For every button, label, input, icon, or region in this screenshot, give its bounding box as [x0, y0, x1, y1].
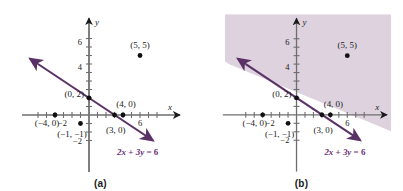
point-label-4-0-a: (4, 0): [116, 99, 136, 109]
point-0-2-b: [294, 96, 299, 101]
x-tick-label-neg2-b: −2: [266, 118, 275, 128]
graph-b: x y −2 6 −2 4 6 (0, 2) (3, 0) (4, 0) (5,…: [201, 0, 402, 175]
point-label-3-0-b: (3, 0): [313, 125, 332, 135]
point-neg4-0-b: [260, 112, 265, 117]
point-label-neg1-neg1-b: (−1, −1): [265, 129, 294, 139]
point-label-0-2-a: (0, 2): [65, 89, 85, 99]
x-tick-label-6-b: 6: [345, 118, 349, 128]
panel-caption-b: (b): [201, 178, 402, 189]
panel-a: x y −2 6 −2 4 6 (0, 2) (3, 0) (4, 0) (5,…: [0, 0, 201, 191]
point-label-neg4-0-a: (−4, 0): [35, 118, 60, 128]
panel-caption-a: (a): [0, 178, 201, 189]
point-3-0-b: [320, 112, 325, 117]
equation-label-a: 2x + 3y = 6: [116, 147, 159, 157]
point-label-3-0-a: (3, 0): [106, 125, 126, 135]
x-tick-label-neg2-a: −2: [58, 118, 67, 128]
x-axis-label-b: x: [374, 102, 379, 112]
y-axis-label-a: y: [94, 17, 99, 27]
point-label-5-5-a: (5, 5): [130, 40, 150, 50]
x-axis-label-a: x: [167, 102, 172, 112]
point-4-0-b: [328, 112, 333, 117]
line-arrow-left-a: [30, 59, 38, 64]
point-neg1-neg1-b: [286, 121, 291, 126]
y-tick-label-4-a: 4: [78, 62, 83, 72]
equation-label-b: 2x + 3y = 6: [323, 147, 366, 157]
point-label-neg1-neg1-a: (−1, −1): [57, 129, 87, 139]
figure-two-panel-graph: x y −2 6 −2 4 6 (0, 2) (3, 0) (4, 0) (5,…: [0, 0, 403, 191]
y-tick-label-6-a: 6: [78, 37, 82, 47]
shaded-region-b: [225, 14, 391, 131]
point-label-4-0-b: (4, 0): [324, 99, 343, 109]
point-0-2-a: [87, 96, 92, 101]
graph-a: x y −2 6 −2 4 6 (0, 2) (3, 0) (4, 0) (5,…: [0, 0, 201, 175]
point-neg1-neg1-a: [78, 121, 83, 126]
point-label-0-2-b: (0, 2): [272, 89, 291, 99]
x-tick-label-6-a: 6: [138, 118, 142, 128]
point-neg4-0-a: [53, 113, 58, 118]
point-3-0-a: [112, 113, 117, 118]
y-axis-label-b: y: [301, 17, 306, 27]
panel-b: x y −2 6 −2 4 6 (0, 2) (3, 0) (4, 0) (5,…: [201, 0, 402, 191]
point-5-5-a: [138, 53, 143, 58]
point-5-5-b: [345, 53, 350, 58]
point-label-5-5-b: (5, 5): [338, 40, 357, 50]
y-tick-label-6-b: 6: [285, 37, 289, 47]
line-2x-3y-6-a: [38, 64, 153, 141]
point-label-neg4-0-b: (−4, 0): [243, 118, 267, 128]
point-4-0-a: [121, 113, 126, 118]
